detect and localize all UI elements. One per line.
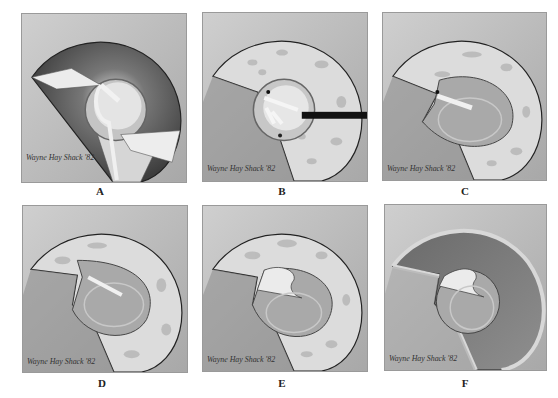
- instrument-icon: [302, 112, 367, 119]
- illustration-b: Wayne Hay Shack '82: [203, 13, 367, 181]
- panel-a: Wayne Hay Shack '82: [21, 13, 187, 183]
- illustration-c: Wayne Hay Shack '82: [383, 13, 546, 180]
- artist-signature: Wayne Hay Shack '82: [207, 164, 275, 173]
- illustration-d: Wayne Hay Shack '82: [23, 206, 187, 372]
- artist-signature: Wayne Hay Shack '82: [26, 153, 94, 162]
- panel-f: Wayne Hay Shack '82: [384, 204, 547, 371]
- panel-b: Wayne Hay Shack '82: [202, 12, 368, 182]
- artist-signature: Wayne Hay Shack '82: [27, 357, 95, 366]
- panel-label-b: B: [272, 185, 292, 197]
- artist-signature: Wayne Hay Shack '82: [207, 355, 275, 364]
- panel-label-c: C: [455, 185, 475, 197]
- panel-d: Wayne Hay Shack '82: [22, 205, 188, 373]
- artist-signature: Wayne Hay Shack '82: [387, 164, 455, 173]
- panel-label-a: A: [90, 185, 110, 197]
- panel-c: Wayne Hay Shack '82: [382, 12, 547, 181]
- illustration-e: Wayne Hay Shack '82: [203, 206, 367, 371]
- illustration-a: Wayne Hay Shack '82: [22, 14, 186, 182]
- panel-label-d: D: [92, 377, 112, 389]
- panel-e: Wayne Hay Shack '82: [202, 205, 368, 372]
- illustration-f: Wayne Hay Shack '82: [385, 205, 546, 370]
- panel-label-e: E: [272, 377, 292, 389]
- panel-label-f: F: [455, 377, 475, 389]
- artist-signature: Wayne Hay Shack '82: [389, 354, 457, 363]
